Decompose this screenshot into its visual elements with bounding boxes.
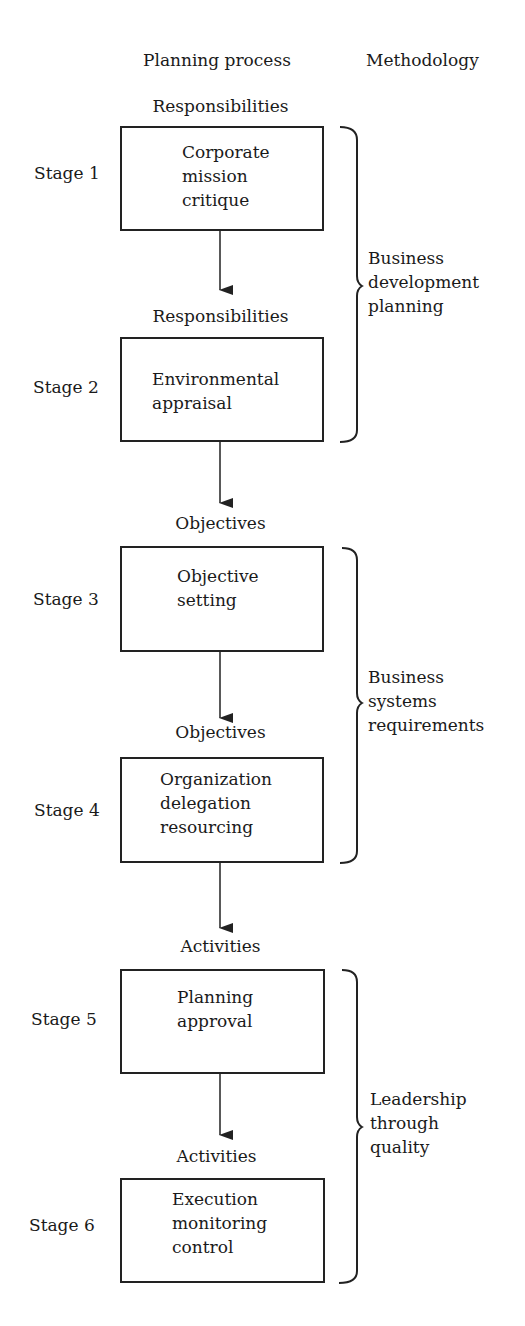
stage6-input-label: Activities (115, 1146, 318, 1166)
stage2-box: Environmental appraisal (120, 337, 324, 442)
stage2-label: Stage 2 (33, 377, 99, 397)
methodology-leadership-through-quality: Leadership through quality (370, 1087, 467, 1159)
stage4-label: Stage 4 (34, 800, 100, 820)
stage3-box: Objective setting (120, 546, 324, 652)
stage2-box-text: Environmental appraisal (152, 367, 279, 415)
stage1-box-text: Corporate mission critique (182, 140, 270, 212)
stage6-box-text: Execution monitoring control (172, 1187, 267, 1259)
stage6-box: Execution monitoring control (120, 1178, 325, 1283)
stage6-label: Stage 6 (29, 1215, 95, 1235)
methodology-business-development-planning: Business development planning (368, 246, 479, 318)
stage5-input-label: Activities (119, 936, 322, 956)
brace-business-development (340, 127, 362, 442)
stage4-box-text: Organization delegation resourcing (160, 767, 272, 839)
methodology-business-systems-requirements: Business systems requirements (368, 665, 484, 737)
stage1-box: Corporate mission critique (120, 126, 324, 231)
stage5-box: Planning approval (120, 969, 325, 1074)
brace-business-systems (340, 548, 362, 863)
brace-leadership-quality (339, 970, 362, 1283)
stage1-label: Stage 1 (34, 163, 100, 183)
stage1-input-label: Responsibilities (119, 96, 322, 116)
stage5-box-text: Planning approval (177, 985, 253, 1033)
stage5-label: Stage 5 (31, 1009, 97, 1029)
stage4-box: Organization delegation resourcing (120, 757, 324, 863)
stage4-input-label: Objectives (119, 722, 322, 742)
stage3-input-label: Objectives (119, 513, 322, 533)
stage3-box-text: Objective setting (177, 564, 259, 612)
stage3-label: Stage 3 (33, 589, 99, 609)
stage2-input-label: Responsibilities (119, 306, 322, 326)
